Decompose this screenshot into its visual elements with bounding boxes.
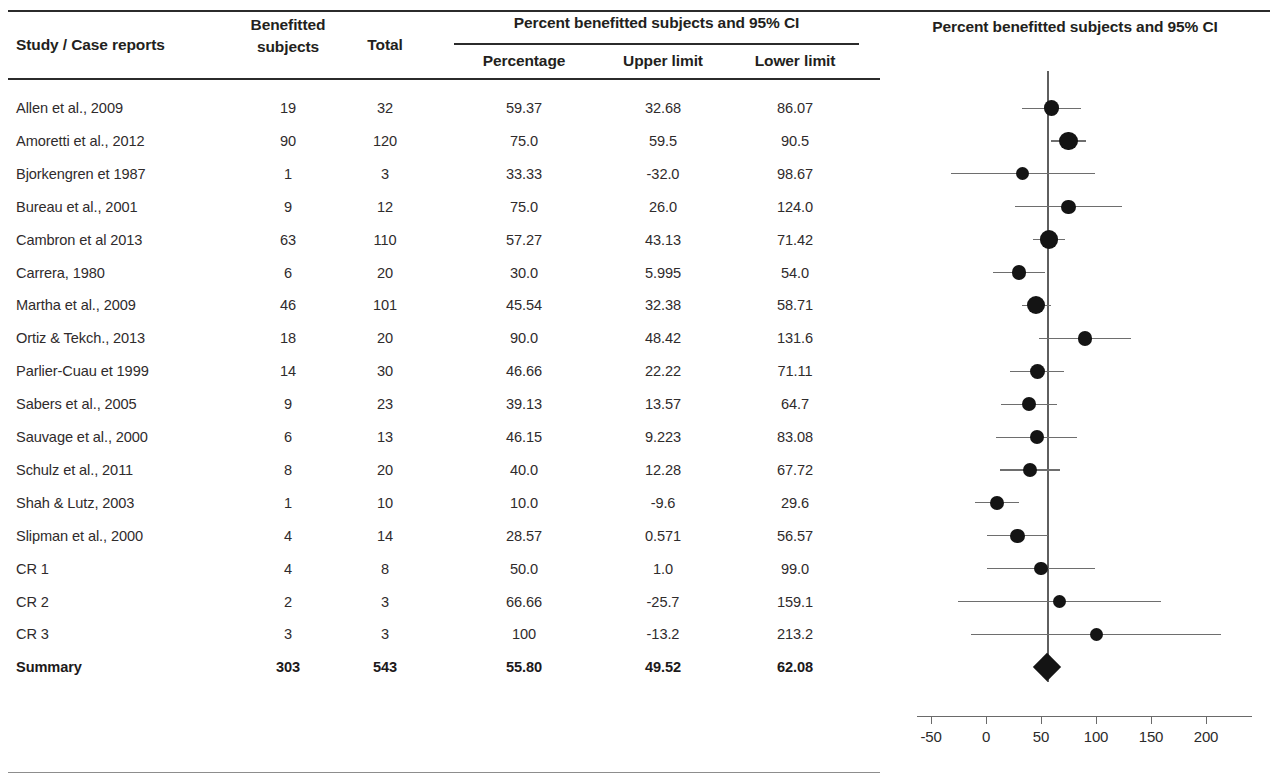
table-cell-study: Schulz et al., 2011 [16, 455, 231, 485]
table-cell-upper: -25.7 [596, 587, 730, 617]
table-row: Sabers et al., 200592339.1313.5764.7 [0, 389, 880, 419]
effect-marker [1090, 628, 1103, 641]
table-row: Allen et al., 2009193259.3732.6886.07 [0, 93, 880, 123]
table-cell-lower: 58.71 [730, 290, 860, 320]
table-row: CR 14850.01.099.0 [0, 554, 880, 584]
table-cell-benefitted: 1 [228, 488, 348, 518]
table-top-rule [8, 10, 880, 12]
effect-marker [1027, 296, 1045, 314]
table-cell-total: 110 [352, 225, 418, 255]
group-header-rule [454, 43, 859, 45]
table-cell-percentage: 75.0 [454, 192, 594, 222]
table-row: Martha et al., 20094610145.5432.3858.71 [0, 290, 880, 320]
table-cell-benefitted: 9 [228, 389, 348, 419]
table-cell-benefitted: 303 [228, 652, 348, 682]
table-row: CR 22366.66-25.7159.1 [0, 587, 880, 617]
table-cell-upper: 49.52 [596, 652, 730, 682]
table-cell-study: Cambron et al 2013 [16, 225, 231, 255]
table-cell-total: 10 [352, 488, 418, 518]
table-cell-percentage: 75.0 [454, 126, 594, 156]
effect-marker [1023, 463, 1038, 478]
table-cell-lower: 83.08 [730, 422, 860, 452]
table-cell-upper: 32.38 [596, 290, 730, 320]
forest-plot-panel: -50050100150200 [880, 0, 1277, 777]
table-cell-study: Ortiz & Tekch., 2013 [16, 323, 231, 353]
table-cell-study: Shah & Lutz, 2003 [16, 488, 231, 518]
table-cell-study: CR 1 [16, 554, 231, 584]
effect-marker [1059, 132, 1078, 151]
summary-diamond [1033, 653, 1061, 681]
table-cell-benefitted: 6 [228, 258, 348, 288]
table-cell-percentage: 33.33 [454, 159, 594, 189]
table-row: Bureau et al., 200191275.026.0124.0 [0, 192, 880, 222]
table-cell-lower: 99.0 [730, 554, 860, 584]
table-cell-benefitted: 18 [228, 323, 348, 353]
table-cell-study: Slipman et al., 2000 [16, 521, 231, 551]
table-cell-study: Summary [16, 652, 231, 682]
table-cell-lower: 64.7 [730, 389, 860, 419]
table-cell-percentage: 39.13 [454, 389, 594, 419]
table-row: Cambron et al 20136311057.2743.1371.42 [0, 225, 880, 255]
table-cell-benefitted: 46 [228, 290, 348, 320]
effect-marker [1030, 430, 1044, 444]
effect-marker [1010, 529, 1024, 543]
effect-marker [1012, 265, 1027, 280]
table-cell-upper: 1.0 [596, 554, 730, 584]
table-cell-percentage: 55.80 [454, 652, 594, 682]
table-cell-upper: -9.6 [596, 488, 730, 518]
forest-plot-figure: Study / Case reports Benefitted subjects… [0, 0, 1277, 777]
column-header-upper-limit: Upper limit [596, 52, 730, 70]
table-cell-benefitted: 8 [228, 455, 348, 485]
x-axis-tick [1151, 716, 1152, 724]
table-cell-lower: 90.5 [730, 126, 860, 156]
table-cell-benefitted: 63 [228, 225, 348, 255]
x-axis-tick-label: 200 [1176, 728, 1236, 745]
table-cell-benefitted: 19 [228, 93, 348, 123]
table-row-summary: Summary30354355.8049.5262.08 [0, 652, 880, 682]
table-cell-upper: 12.28 [596, 455, 730, 485]
table-cell-total: 3 [352, 587, 418, 617]
table-cell-percentage: 90.0 [454, 323, 594, 353]
header-bottom-rule [8, 78, 880, 80]
table-cell-lower: 86.07 [730, 93, 860, 123]
table-cell-total: 14 [352, 521, 418, 551]
table-cell-upper: 22.22 [596, 356, 730, 386]
table-cell-upper: -32.0 [596, 159, 730, 189]
table-cell-study: Sauvage et al., 2000 [16, 422, 231, 452]
effect-marker [1061, 200, 1075, 214]
table-row: Schulz et al., 201182040.012.2867.72 [0, 455, 880, 485]
table-row: Carrera, 198062030.05.99554.0 [0, 258, 880, 288]
x-axis-line [917, 716, 1252, 717]
table-cell-total: 32 [352, 93, 418, 123]
table-cell-total: 3 [352, 159, 418, 189]
table-cell-lower: 29.6 [730, 488, 860, 518]
x-axis-tick [931, 716, 932, 724]
column-header-group-span: Percent benefitted subjects and 95% CI [454, 14, 859, 32]
table-row: Sauvage et al., 200061346.159.22383.08 [0, 422, 880, 452]
table-cell-benefitted: 4 [228, 521, 348, 551]
x-axis-tick [1206, 716, 1207, 724]
table-cell-percentage: 50.0 [454, 554, 594, 584]
table-cell-total: 120 [352, 126, 418, 156]
column-header-total: Total [352, 36, 418, 54]
table-cell-lower: 124.0 [730, 192, 860, 222]
column-header-benefitted-subjects: Benefitted subjects [228, 14, 348, 58]
table-cell-study: Martha et al., 2009 [16, 290, 231, 320]
reference-line [1047, 71, 1048, 682]
table-cell-lower: 98.67 [730, 159, 860, 189]
table-row: Bjorkengren et 19871333.33-32.098.67 [0, 159, 880, 189]
table-cell-study: Amoretti et al., 2012 [16, 126, 231, 156]
table-cell-lower: 71.11 [730, 356, 860, 386]
table-cell-lower: 71.42 [730, 225, 860, 255]
table-cell-total: 13 [352, 422, 418, 452]
table-cell-total: 543 [352, 652, 418, 682]
table-cell-benefitted: 4 [228, 554, 348, 584]
table-cell-total: 20 [352, 258, 418, 288]
table-cell-study: CR 2 [16, 587, 231, 617]
table-cell-lower: 56.57 [730, 521, 860, 551]
x-axis-tick-label: 100 [1066, 728, 1126, 745]
table-cell-percentage: 46.66 [454, 356, 594, 386]
table-cell-upper: 59.5 [596, 126, 730, 156]
table-row: Ortiz & Tekch., 2013182090.048.42131.6 [0, 323, 880, 353]
x-axis-tick [1041, 716, 1042, 724]
